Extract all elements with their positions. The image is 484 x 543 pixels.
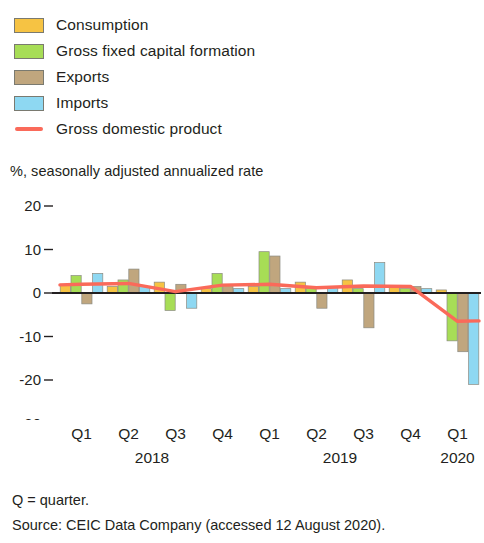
legend-item: Gross domestic product — [14, 116, 474, 142]
x-axis-year-label: 2018 — [135, 449, 169, 467]
legend-line-marker — [14, 122, 44, 137]
footnote-quarter: Q = quarter. — [12, 488, 482, 513]
chart-bar — [375, 263, 385, 293]
legend-item-label: Imports — [56, 95, 108, 111]
legend-color-swatch — [14, 44, 44, 59]
x-axis-year-label: 2019 — [323, 449, 357, 467]
legend-color-swatch — [14, 18, 44, 33]
legend-item-label: Consumption — [56, 17, 148, 33]
chart-bar — [165, 293, 175, 310]
legend-item: Exports — [14, 64, 474, 90]
chart-bar — [129, 269, 139, 293]
footnote-source: Source: CEIC Data Company (accessed 12 A… — [12, 513, 482, 538]
legend-line-icon — [15, 127, 43, 131]
x-axis-year-label: 2020 — [440, 449, 474, 467]
chart-plot-area: 20100-10-20-30 — [0, 190, 484, 420]
chart-bar — [212, 273, 222, 293]
x-axis-quarter-label: Q3 — [165, 425, 186, 443]
legend-item: Consumption — [14, 12, 474, 38]
y-axis-tick-label: 10 — [24, 241, 41, 258]
chart-bar — [187, 293, 197, 308]
x-axis-quarter-label: Q4 — [400, 425, 421, 443]
chart-bar — [317, 293, 327, 308]
legend-item-label: Gross domestic product — [56, 121, 222, 137]
y-axis-tick-label: -20 — [19, 371, 41, 388]
legend-item-label: Gross fixed capital formation — [56, 43, 255, 59]
chart-bar — [469, 293, 479, 384]
legend-item-label: Exports — [56, 69, 109, 85]
x-axis-quarter-label: Q3 — [353, 425, 374, 443]
x-axis-quarter-label: Q1 — [259, 425, 280, 443]
chart-bar — [364, 293, 374, 328]
legend-item: Imports — [14, 90, 474, 116]
x-axis-labels: Q1Q2Q3Q4Q1Q2Q3Q4Q1201820192020 — [0, 425, 484, 483]
chart-bar — [270, 256, 280, 293]
legend-item: Gross fixed capital formation — [14, 38, 474, 64]
y-axis-tick-label: -30 — [19, 415, 41, 421]
y-axis-tick-label: 20 — [24, 197, 41, 214]
x-axis-quarter-label: Q1 — [71, 425, 92, 443]
chart-footnotes: Q = quarter. Source: CEIC Data Company (… — [12, 488, 482, 538]
y-axis-tick-label: 0 — [33, 284, 41, 301]
legend-color-swatch — [14, 70, 44, 85]
chart-bar — [259, 252, 269, 293]
x-axis-quarter-label: Q2 — [306, 425, 327, 443]
x-axis-quarter-label: Q4 — [212, 425, 233, 443]
y-axis-tick-label: -10 — [19, 328, 41, 345]
chart-bar — [82, 293, 92, 304]
chart-svg: 20100-10-20-30 — [0, 190, 484, 420]
legend-color-swatch — [14, 96, 44, 111]
y-axis-title: %, seasonally adjusted annualized rate — [10, 163, 263, 179]
x-axis-quarter-label: Q1 — [447, 425, 468, 443]
chart-legend: ConsumptionGross fixed capital formation… — [14, 12, 474, 142]
x-axis-quarter-label: Q2 — [118, 425, 139, 443]
